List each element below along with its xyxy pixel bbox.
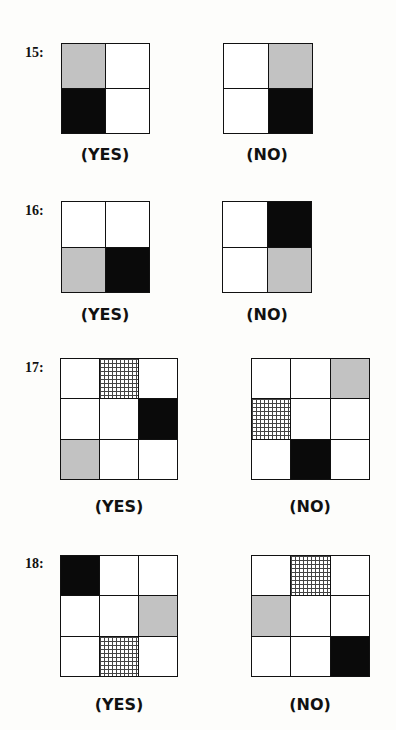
cell-white xyxy=(331,440,369,479)
yes-grid xyxy=(61,201,150,293)
no-label: (NO) xyxy=(217,305,317,324)
cell-black xyxy=(62,89,105,133)
cell-white xyxy=(291,359,329,398)
cell-white xyxy=(291,637,329,676)
cell-gray xyxy=(139,596,177,635)
no-grid xyxy=(251,358,370,480)
cell-white xyxy=(61,359,99,398)
cell-white xyxy=(331,399,369,438)
cell-white xyxy=(252,359,290,398)
cell-gray xyxy=(268,248,312,293)
cell-black xyxy=(331,637,369,676)
cell-gray xyxy=(62,248,105,293)
cell-white xyxy=(61,637,99,676)
cell-white xyxy=(224,44,268,88)
cell-gray xyxy=(269,44,313,88)
problem-number: 16: xyxy=(25,203,44,219)
problem-number: 15: xyxy=(25,45,44,61)
no-label: (NO) xyxy=(217,145,317,164)
cell-hatch xyxy=(291,556,329,595)
cell-gray xyxy=(62,44,105,88)
cell-gray xyxy=(252,596,290,635)
cell-gray xyxy=(331,359,369,398)
cell-white xyxy=(100,440,138,479)
cell-white xyxy=(291,399,329,438)
cell-white xyxy=(139,556,177,595)
no-grid xyxy=(251,555,370,677)
yes-label: (YES) xyxy=(69,497,169,516)
cell-white xyxy=(139,359,177,398)
cell-white xyxy=(61,596,99,635)
cell-black xyxy=(291,440,329,479)
cell-hatch xyxy=(252,399,290,438)
cell-white xyxy=(106,202,149,247)
no-grid xyxy=(222,201,312,293)
cell-white xyxy=(100,399,138,438)
cell-white xyxy=(291,596,329,635)
cell-white xyxy=(331,556,369,595)
cell-hatch xyxy=(100,359,138,398)
cell-white xyxy=(62,202,105,247)
cell-white xyxy=(100,596,138,635)
problem-number: 17: xyxy=(25,360,44,376)
cell-white xyxy=(100,556,138,595)
cell-black xyxy=(61,556,99,595)
yes-grid xyxy=(60,358,178,480)
cell-black xyxy=(106,248,149,293)
cell-black xyxy=(268,202,312,247)
cell-white xyxy=(61,399,99,438)
cell-white xyxy=(223,248,267,293)
yes-grid xyxy=(60,555,178,677)
cell-hatch xyxy=(100,637,138,676)
problem-number: 18: xyxy=(25,556,44,572)
cell-white xyxy=(331,596,369,635)
no-label: (NO) xyxy=(260,695,360,714)
cell-white xyxy=(252,440,290,479)
yes-label: (YES) xyxy=(55,145,155,164)
cell-white xyxy=(223,202,267,247)
cell-white xyxy=(106,89,149,133)
cell-white xyxy=(139,637,177,676)
no-label: (NO) xyxy=(260,497,360,516)
yes-grid xyxy=(61,43,150,134)
yes-label: (YES) xyxy=(69,695,169,714)
cell-black xyxy=(269,89,313,133)
cell-gray xyxy=(61,440,99,479)
no-grid xyxy=(223,43,313,134)
cell-white xyxy=(252,556,290,595)
cell-white xyxy=(252,637,290,676)
cell-black xyxy=(139,399,177,438)
cell-white xyxy=(224,89,268,133)
cell-white xyxy=(106,44,149,88)
yes-label: (YES) xyxy=(55,305,155,324)
cell-white xyxy=(139,440,177,479)
